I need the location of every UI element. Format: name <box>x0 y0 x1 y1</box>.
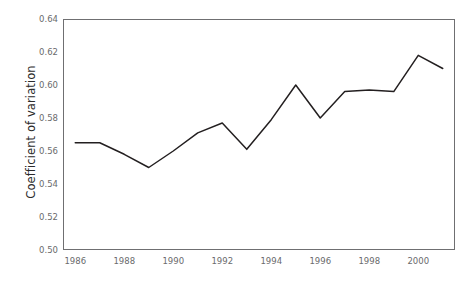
x-tick-label: 1998 <box>349 256 389 266</box>
data-series-layer <box>63 19 455 250</box>
x-tick-label: 2000 <box>398 256 438 266</box>
y-axis-title: Coefficient of variation <box>24 22 38 242</box>
y-tick-label: 0.50 <box>22 245 58 255</box>
x-tick-label: 1988 <box>104 256 144 266</box>
line-chart: Coefficient of variation 0.500.520.540.5… <box>0 0 474 287</box>
x-tick-label: 1992 <box>202 256 242 266</box>
x-tick-label: 1994 <box>251 256 291 266</box>
series-line-coefficient-of-variation <box>75 55 443 167</box>
x-tick-label: 1996 <box>300 256 340 266</box>
x-tick-label: 1990 <box>153 256 193 266</box>
x-tick-label: 1986 <box>55 256 95 266</box>
